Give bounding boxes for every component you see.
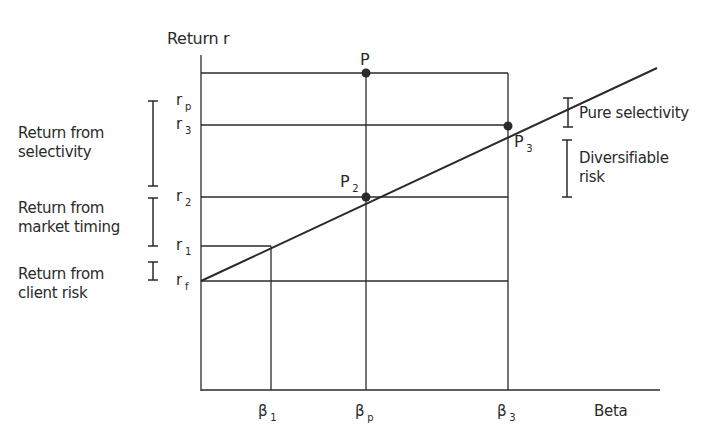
annotation-pure-selectivity: Pure selectivity [579, 104, 689, 123]
point-p-label: P [360, 50, 369, 69]
annotation-return-client-risk: Return from client risk [18, 265, 113, 303]
y-tick-r1: r1 [176, 236, 191, 256]
annotation-return-market-timing: Return from market timing [18, 199, 128, 237]
y-tick-rp: rp [176, 91, 191, 111]
y-axis-title: Return r [167, 29, 229, 48]
point-p-marker [362, 69, 371, 78]
point-p3-label: P3 [514, 132, 532, 153]
point-p2-label: P2 [340, 172, 358, 193]
x-axis-title: Beta [594, 402, 627, 421]
x-tick-beta3: β3 [497, 402, 515, 422]
y-tick-r2: r2 [176, 187, 191, 207]
point-p3-marker [504, 122, 513, 131]
x-tick-betap: βp [355, 402, 373, 422]
y-tick-rf: rf [176, 271, 188, 291]
point-p2-marker [362, 193, 371, 202]
x-tick-beta1: β1 [258, 402, 276, 422]
annotation-diversifiable-risk: Diversifiable risk [579, 149, 679, 187]
y-tick-r3: r3 [176, 115, 191, 135]
annotation-return-selectivity: Return from selectivity [18, 124, 128, 162]
